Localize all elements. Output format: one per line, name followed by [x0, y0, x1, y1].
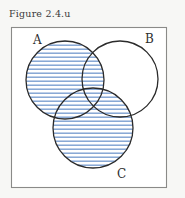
figure-container: Figure 2.4.u A B C	[0, 0, 185, 198]
set-label-b: B	[145, 32, 154, 46]
shaded-region-a-union-c	[12, 28, 167, 188]
venn-diagram: A B C	[0, 0, 185, 198]
set-label-c: C	[117, 167, 126, 181]
shaded-region-group	[12, 28, 167, 188]
set-label-a: A	[32, 33, 42, 47]
